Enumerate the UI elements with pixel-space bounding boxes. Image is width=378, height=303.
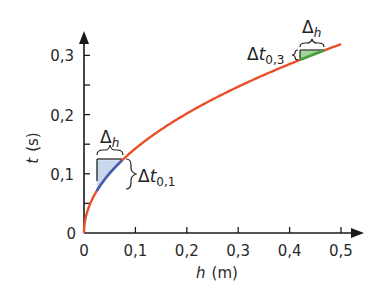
y-axis-arrow-icon (79, 31, 89, 44)
brace-dt-3-icon (292, 50, 298, 60)
curve-t-of-h (84, 44, 341, 233)
x-tick-label: 0 (79, 242, 89, 260)
y-axis-unit: (s) (24, 132, 42, 152)
svg-text:t(s): t(s) (24, 132, 42, 163)
x-ticks (135, 227, 341, 233)
x-tick-label: 0,2 (175, 242, 199, 260)
x-axis-unit: (m) (212, 264, 238, 282)
label-dt-1: Δt0,1 (138, 166, 175, 189)
x-axis-arrow-icon (351, 228, 364, 238)
x-axis (84, 228, 364, 238)
y-tick-label: 0,3 (50, 47, 74, 65)
chart: 00,10,20,3 00,10,20,30,40,5 h(m) t(s) Δh… (0, 0, 378, 303)
y-axis (79, 31, 89, 233)
label-dt-3: Δt0,3 (247, 44, 284, 67)
y-axis-var: t (24, 157, 42, 164)
svg-text:h(m): h(m) (196, 264, 238, 282)
y-tick-labels: 00,10,20,3 (50, 47, 76, 243)
x-tick-label: 0,4 (278, 242, 302, 260)
x-axis-var: h (196, 264, 206, 282)
x-tick-label: 0,1 (123, 242, 147, 260)
y-tick-label: 0,2 (50, 107, 74, 125)
x-tick-label: 0,3 (226, 242, 250, 260)
y-tick-label: 0 (66, 225, 76, 243)
brace-dt-1-icon (126, 159, 136, 189)
label-dh-1: Δh (100, 127, 119, 150)
y-axis-title: t(s) (24, 132, 42, 163)
x-axis-title: h(m) (196, 264, 238, 282)
x-tick-label: 0,5 (329, 242, 353, 260)
y-ticks (84, 55, 90, 203)
x-tick-labels: 00,10,20,30,40,5 (79, 242, 353, 260)
brace-dh-3-icon (300, 39, 324, 47)
y-tick-label: 0,1 (50, 166, 74, 184)
label-dh-3: Δh (302, 17, 321, 40)
